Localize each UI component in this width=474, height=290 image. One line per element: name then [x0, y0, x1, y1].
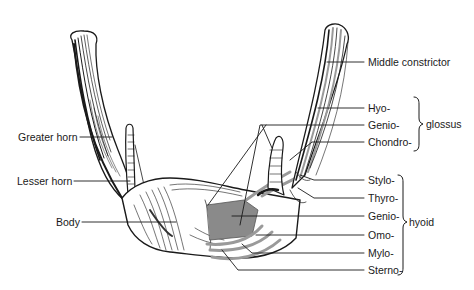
label-lesser-horn: Lesser horn: [17, 175, 72, 187]
label-geniohyoid: Genio-: [368, 210, 400, 222]
label-chondroglossus: Chondro-: [368, 136, 412, 148]
label-genioglossus: Genio-: [368, 119, 400, 131]
label-hyoglossus: Hyo-: [368, 102, 390, 114]
geniohyoid-area: [207, 200, 258, 240]
group-label-hyoid: hyoid: [409, 216, 434, 228]
label-mylohyoid: Mylo-: [368, 247, 394, 259]
hyoid-brace: [398, 175, 407, 275]
label-thyrohyoid: Thyro-: [368, 192, 398, 204]
label-sternohyoid: Sterno-: [368, 264, 402, 276]
label-greater-horn: Greater horn: [18, 131, 78, 143]
label-stylohyoid: Stylo-: [368, 174, 395, 186]
hyoid-diagram: Greater horn Lesser horn Body Middle con…: [0, 0, 474, 290]
group-label-glossus: glossus: [426, 118, 462, 130]
label-omohyoid: Omo-: [368, 229, 394, 241]
glossus-brace: [414, 97, 423, 151]
label-middle-constrictor: Middle constrictor: [368, 56, 450, 68]
label-body: Body: [56, 216, 80, 228]
right-greater-horn: [290, 24, 348, 203]
left-greater-horn: [71, 31, 132, 200]
